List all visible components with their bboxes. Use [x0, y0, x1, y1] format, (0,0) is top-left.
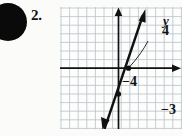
problem-number: 2. — [31, 7, 42, 24]
worksheet-figure: 2. — [0, 0, 182, 136]
point-y-intercept — [116, 91, 121, 96]
tick-label-y-negative-3: −3 — [161, 103, 176, 117]
tick-label-y-4: 4 — [162, 24, 169, 38]
ink-blob-decoration — [0, 3, 27, 41]
coordinate-graph: y x 4 −4 4 −3 (0, −3) ( 6 5 , 0 ) — [60, 7, 182, 129]
tick-label-x-negative-4: −4 — [122, 75, 137, 89]
